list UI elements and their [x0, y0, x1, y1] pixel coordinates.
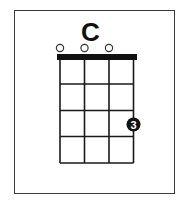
open-string-markers [56, 44, 112, 51]
open-string-icon [105, 44, 112, 51]
chord-diagram: 3 [0, 0, 181, 206]
open-string-icon [56, 44, 63, 51]
nut [57, 54, 137, 60]
open-string-icon [81, 44, 88, 51]
finger-dot: 3 [127, 118, 141, 132]
finger-number: 3 [130, 119, 136, 131]
frets [60, 84, 134, 163]
